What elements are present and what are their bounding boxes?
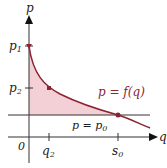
y-axis-label: p	[26, 1, 34, 15]
s0-label: s0	[112, 144, 123, 159]
x-axis-arrow-icon	[149, 133, 158, 141]
x-axis-label: q	[159, 130, 167, 144]
y-axis-arrow-icon	[25, 15, 33, 24]
curve-label: p = f(q)	[98, 85, 145, 99]
origin-label: 0	[18, 140, 25, 153]
p2-label: p2	[9, 81, 22, 96]
p1-label: p1	[9, 39, 22, 54]
consumer-surplus-diagram: p q 0 p1 p2 q2 s0 p = f(q) p = p0	[0, 0, 167, 168]
price-line-label: p = p0	[72, 119, 107, 133]
point-q2-p2	[47, 86, 51, 90]
q2-label: q2	[42, 144, 55, 159]
equilibrium-point	[116, 113, 121, 118]
